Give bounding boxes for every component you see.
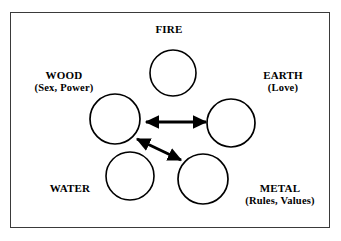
label-wood-name: WOOD	[23, 70, 105, 82]
circle-water	[106, 152, 154, 200]
label-fire-name: FIRE	[129, 24, 209, 36]
label-fire: FIRE	[129, 24, 209, 36]
element-circles-group	[90, 50, 255, 204]
circle-metal	[178, 154, 228, 204]
label-metal-sub: (Rules, Values)	[232, 195, 328, 206]
label-earth-name: EARTH	[243, 70, 323, 82]
label-earth-sub: (Love)	[243, 82, 323, 93]
label-water: WATER	[35, 183, 105, 195]
circle-wood	[90, 94, 140, 144]
label-water-name: WATER	[35, 183, 105, 195]
label-earth: EARTH (Love)	[243, 70, 323, 93]
label-metal: METAL (Rules, Values)	[232, 183, 328, 206]
five-elements-diagram: FIRE WOOD (Sex, Power) EARTH (Love) WATE…	[0, 0, 341, 241]
label-wood: WOOD (Sex, Power)	[23, 70, 105, 93]
label-wood-sub: (Sex, Power)	[23, 82, 105, 93]
label-metal-name: METAL	[232, 183, 328, 195]
circle-fire	[150, 50, 196, 96]
circle-earth	[207, 99, 255, 147]
